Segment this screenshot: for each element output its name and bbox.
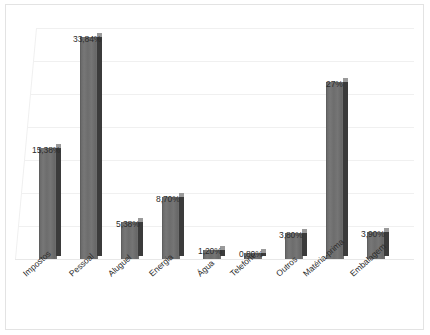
bar-value-label: 1,20% — [198, 246, 222, 256]
bar-value-label: 3,80% — [279, 230, 303, 240]
category-label-agua: Água — [195, 258, 216, 278]
bar-front-face — [80, 37, 98, 259]
bar-front-face — [39, 148, 57, 259]
bar-value-label: 33,84% — [73, 34, 101, 44]
category-label-aluguel: Aluguel — [106, 252, 133, 278]
bar-side-face — [343, 79, 348, 256]
gridline — [18, 226, 414, 227]
bar-value-label: 27% — [326, 79, 343, 89]
category-label-impostos: Impostos — [21, 248, 53, 278]
bar-side-face — [97, 34, 102, 256]
bar-top-face — [343, 78, 348, 82]
plot-area: 15,38% 33,84% 5,38% 8,70% 1,20% — [6, 5, 425, 331]
bar-value-label: 15,38% — [32, 145, 60, 155]
bar-value-label: 8,70% — [156, 194, 180, 204]
category-label-outros: Outros — [274, 254, 299, 278]
bar-side-face — [56, 145, 61, 256]
bar-front-face — [326, 82, 344, 259]
bar-value-label: 3,90% — [361, 229, 385, 239]
bar-front-face — [162, 197, 180, 259]
bar-value-label: 5,38% — [116, 219, 140, 229]
axis-baseline — [15, 259, 414, 260]
wall-edge — [15, 28, 37, 259]
category-label-energia: Energia — [147, 252, 175, 279]
chart-container: 15,38% 33,84% 5,38% 8,70% 1,20% — [5, 4, 424, 330]
gridline — [36, 28, 414, 29]
